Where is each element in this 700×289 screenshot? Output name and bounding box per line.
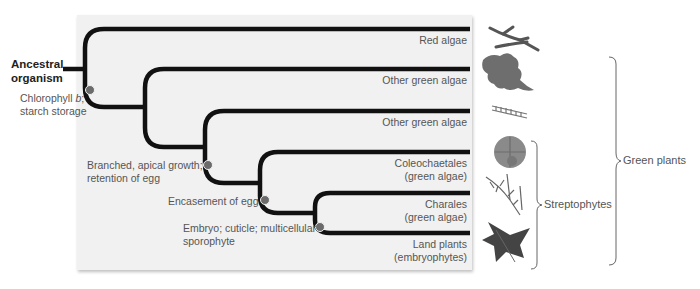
- group-label-streptophytes: Streptophytes: [544, 198, 612, 210]
- organism-illustrations: [482, 27, 538, 262]
- character-label-branched: Branched, apical growth; retention of eg…: [87, 159, 203, 184]
- streptophytes-bracket: [531, 141, 542, 269]
- character-dot-branched: [204, 161, 213, 170]
- taxon-name: Other green algae: [382, 116, 467, 129]
- character-text: Encasement of egg: [168, 195, 258, 208]
- character-text: sporophyte: [183, 235, 316, 248]
- character-label-encasement: Encasement of egg: [168, 195, 258, 208]
- branch-streptophytes: [205, 147, 260, 183]
- taxon-name: Coleochaetales: [395, 157, 467, 170]
- chara-stonewort-icon: [486, 174, 522, 215]
- green-plants-bracket: [609, 57, 621, 265]
- taxon-label-charales: Charales (green algae): [405, 198, 467, 223]
- taxon-label-red-algae: Red algae: [419, 34, 467, 47]
- character-dot-chlorophyll: [86, 86, 95, 95]
- taxon-name: Other green algae: [382, 74, 467, 87]
- character-text: Chlorophyll b;: [20, 92, 87, 105]
- taxon-subtitle: (green algae): [395, 170, 467, 183]
- character-label-chlorophyll: Chlorophyll b; starch storage: [20, 92, 87, 117]
- root-label-line2: organism: [11, 71, 63, 85]
- character-text: Branched, apical growth;: [87, 159, 203, 172]
- taxon-name: Charales: [405, 198, 467, 211]
- taxon-label-other-green-algae-2: Other green algae: [382, 116, 467, 129]
- taxon-name: Red algae: [419, 34, 467, 47]
- group-label-green-plants: Green plants: [623, 154, 686, 166]
- taxon-label-coleochaetales: Coleochaetales (green algae): [395, 157, 467, 182]
- coleochaete-disk-icon: [494, 136, 526, 168]
- taxon-subtitle: (embryophytes): [394, 251, 467, 264]
- taxon-name: Land plants: [394, 238, 467, 251]
- branch-red-algae: [85, 29, 470, 69]
- character-text: retention of egg: [87, 172, 203, 185]
- red-algae-seaweed-icon: [490, 27, 538, 50]
- character-text: starch storage: [20, 105, 87, 118]
- taxon-label-land-plants: Land plants (embryophytes): [394, 238, 467, 263]
- taxon-label-other-green-algae-1: Other green algae: [382, 74, 467, 87]
- taxon-subtitle: (green algae): [405, 211, 467, 224]
- green-algae-lettuce-icon: [482, 53, 534, 90]
- character-label-embryo: Embryo; cuticle; multicellular sporophyt…: [183, 222, 316, 247]
- root-label-line1: Ancestral: [11, 57, 63, 71]
- character-dot-embryo: [316, 223, 325, 232]
- fern-frond-icon: [482, 222, 530, 262]
- root-label: Ancestral organism: [11, 57, 63, 85]
- filamentous-algae-icon: [492, 106, 527, 118]
- character-text: Embryo; cuticle; multicellular: [183, 222, 316, 235]
- character-dot-encasement: [261, 196, 270, 205]
- branch-clade-2: [145, 107, 205, 147]
- phylogenetic-tree: [0, 0, 700, 289]
